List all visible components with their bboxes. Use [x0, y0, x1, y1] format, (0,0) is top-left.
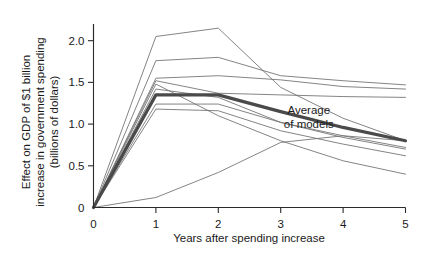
y-tick-label-1.5: 1.5 [69, 76, 85, 88]
y-tick-label-0: 0 [78, 202, 84, 214]
axes-group [88, 24, 406, 213]
chart-series-group [94, 28, 406, 207]
x-tick-label-3: 3 [277, 218, 283, 230]
series-line-model-6 [94, 89, 406, 207]
y-axis-title-line-3: (billions of dollars) [48, 75, 60, 168]
line-chart-svg: 00.51.01.52.0012345 Averageof models Eff… [0, 0, 426, 253]
average-of-models-label-line-2: of models [284, 118, 334, 130]
y-tick-label-1.0: 1.0 [69, 118, 85, 130]
y-axis-title-line-2: increase in government spending [34, 37, 46, 206]
x-axis-title: Years after spending increase [173, 232, 325, 244]
series-line-model-4 [94, 81, 406, 208]
annotations-group: Averageof models [284, 104, 334, 130]
series-line-model-9 [94, 136, 406, 208]
y-axis-title-line-1: Effect on GDP of $1 billion [20, 55, 32, 189]
x-tick-label-1: 1 [153, 218, 159, 230]
series-line-model-3 [94, 76, 406, 208]
y-tick-label-2.0: 2.0 [69, 35, 85, 47]
x-tick-label-5: 5 [402, 218, 408, 230]
y-axis-title: Effect on GDP of $1 billion increase in … [20, 37, 60, 206]
average-of-models-label-line-1: Average [287, 104, 330, 116]
y-tick-label-0.5: 0.5 [69, 160, 85, 172]
series-line-model-7 [94, 104, 406, 207]
x-tick-label-4: 4 [340, 218, 347, 230]
x-tick-label-2: 2 [215, 218, 221, 230]
chart-figure: 00.51.01.52.0012345 Averageof models Eff… [0, 0, 426, 253]
x-tick-label-0: 0 [90, 218, 96, 230]
